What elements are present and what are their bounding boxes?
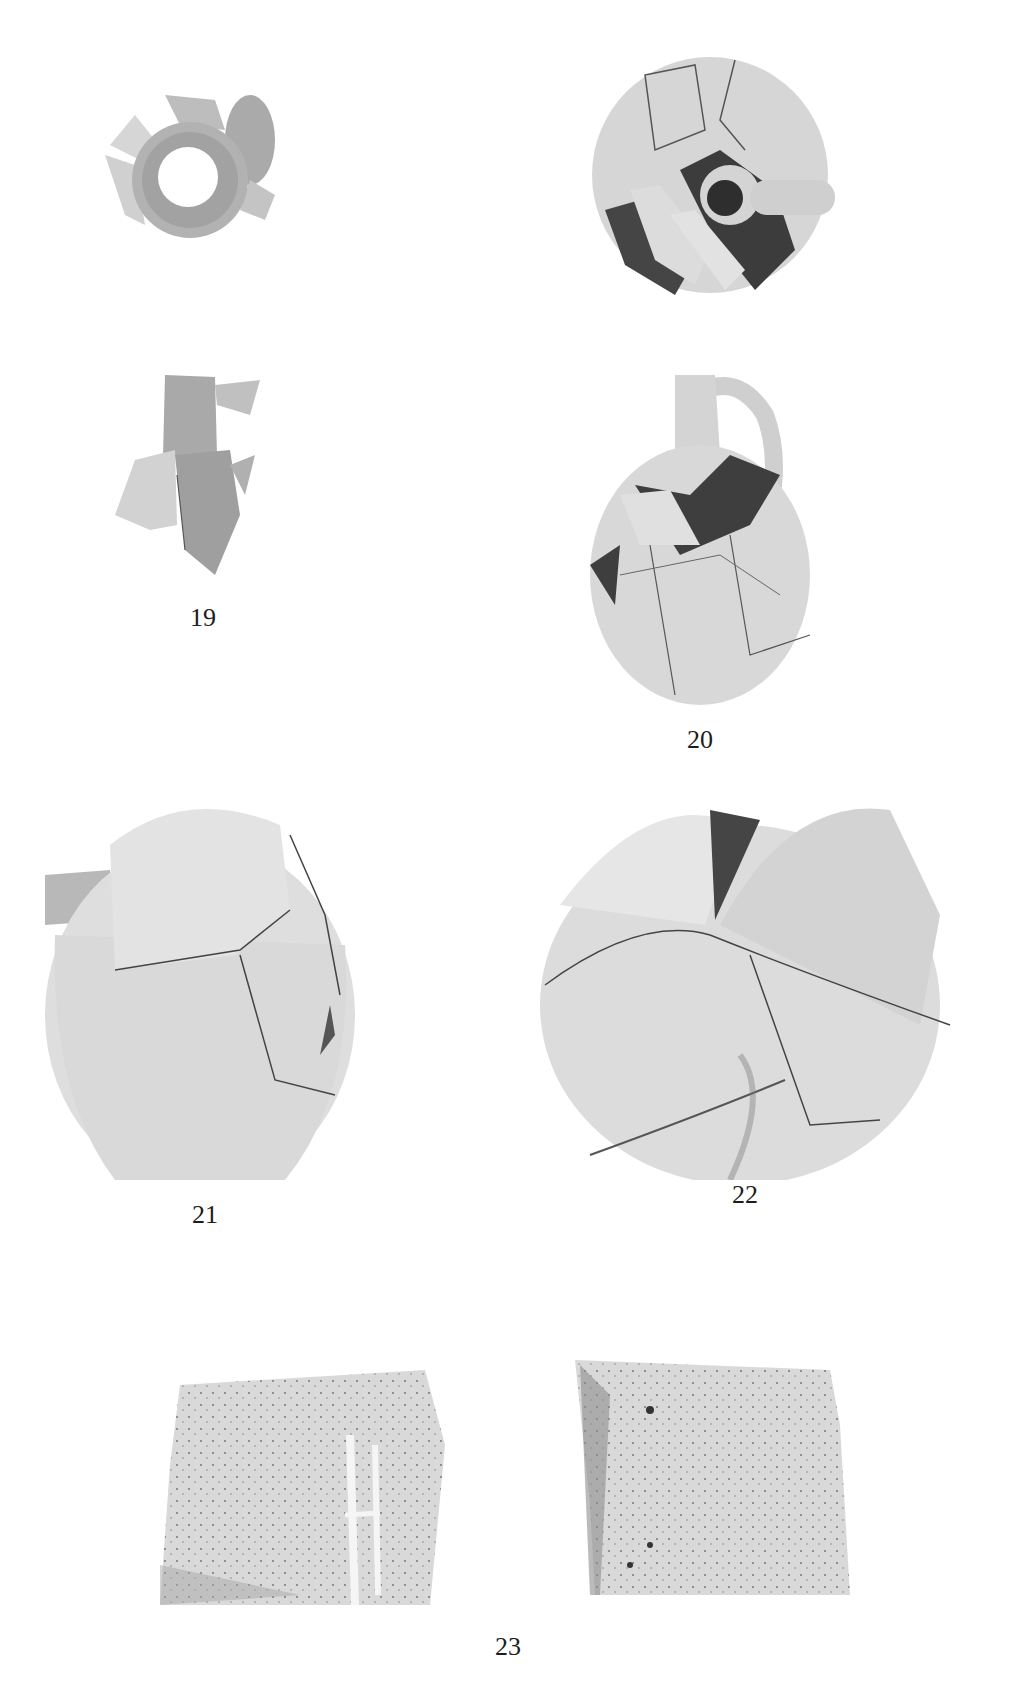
figure-caption-22: 22 <box>705 1180 785 1210</box>
figure-caption-20: 20 <box>660 725 740 755</box>
figure-22 <box>530 795 970 1180</box>
figure-20-top-view <box>585 40 850 305</box>
figure-21 <box>35 795 365 1180</box>
figure-caption-19: 19 <box>163 603 243 633</box>
figure-20-side-view <box>580 375 830 705</box>
figure-23-exterior <box>150 1365 460 1615</box>
figure-caption-23: 23 <box>468 1632 548 1662</box>
figure-19-side-view <box>105 375 275 585</box>
figure-23-interior <box>570 1355 870 1615</box>
figure-19-top-view <box>100 85 280 260</box>
figure-caption-21: 21 <box>165 1200 245 1230</box>
